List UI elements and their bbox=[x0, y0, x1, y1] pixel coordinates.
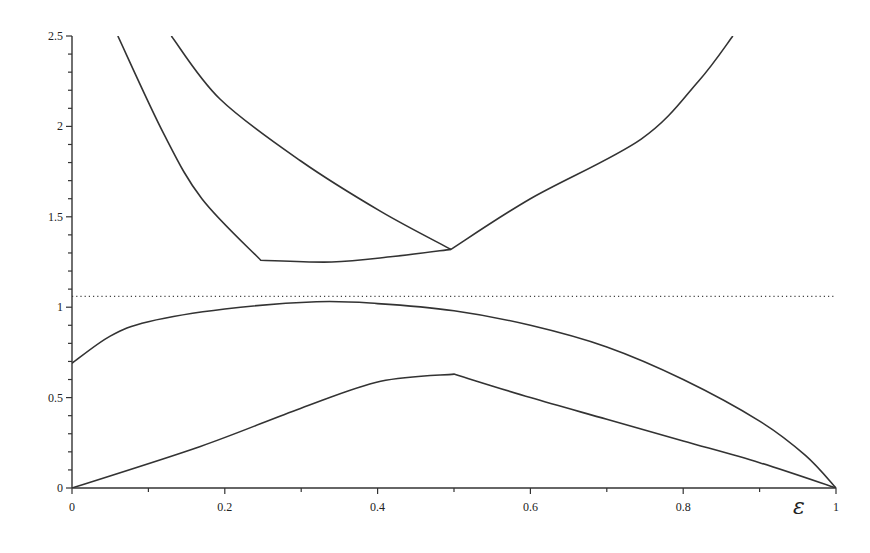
curve-lower-triangle bbox=[72, 374, 836, 488]
x-axis-ticks: 00.20.40.60.81 bbox=[69, 488, 839, 514]
y-tick-label: 0.5 bbox=[48, 391, 63, 405]
y-tick-label: 2 bbox=[57, 119, 63, 133]
x-tick-label: 1 bbox=[833, 500, 839, 514]
x-tick-label: 0.2 bbox=[217, 500, 232, 514]
x-tick-label: 0.8 bbox=[676, 500, 691, 514]
y-tick-label: 1 bbox=[57, 300, 63, 314]
axes bbox=[72, 36, 836, 488]
x-tick-label: 0.6 bbox=[523, 500, 538, 514]
curve-lower-arc bbox=[72, 301, 836, 488]
curve-upper-right-branch bbox=[171, 36, 733, 249]
x-tick-label: 0 bbox=[69, 500, 75, 514]
x-axis-label: ε bbox=[793, 494, 805, 519]
y-tick-label: 1.5 bbox=[48, 210, 63, 224]
y-axis-ticks: 00.511.522.5 bbox=[48, 29, 72, 495]
y-tick-label: 0 bbox=[57, 481, 63, 495]
line-chart: 00.511.522.5 00.20.40.60.81 ε bbox=[0, 0, 870, 553]
x-tick-label: 0.4 bbox=[370, 500, 385, 514]
y-tick-label: 2.5 bbox=[48, 29, 63, 43]
curves bbox=[72, 36, 836, 488]
